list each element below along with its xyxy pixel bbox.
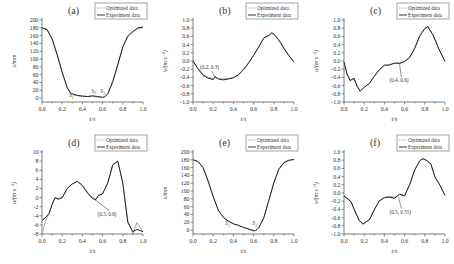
svg-text:6: 6 <box>36 167 39 173</box>
annotation: S3 <box>101 88 106 95</box>
legend-optimized: Optimized data <box>106 5 139 11</box>
axes: -1.0-0.8-0.6-0.4-0.20.00.20.40.60.81.00.… <box>180 17 297 112</box>
svg-text:-4: -4 <box>34 213 39 219</box>
legend-optimized: Optimized data <box>408 137 441 143</box>
svg-text:0.6: 0.6 <box>401 106 408 112</box>
series-experiment <box>193 33 294 80</box>
svg-text:-2: -2 <box>34 204 39 210</box>
svg-text:-0.4: -0.4 <box>331 206 340 212</box>
svg-text:40: 40 <box>33 79 39 85</box>
x-axis-label: t/s <box>392 247 398 254</box>
panel-c: (c)Optimized dataExperiment data-1.0-0.8… <box>302 0 453 132</box>
svg-text:0.8: 0.8 <box>333 25 340 31</box>
panel-label: (d) <box>68 137 80 149</box>
svg-text:0.0: 0.0 <box>333 190 340 196</box>
svg-text:60: 60 <box>184 204 190 210</box>
svg-text:0.0: 0.0 <box>38 106 45 112</box>
svg-text:0: 0 <box>36 195 39 201</box>
svg-text:200: 200 <box>30 17 39 23</box>
legend: Optimized dataExperiment data <box>95 3 147 19</box>
svg-text:-0.6: -0.6 <box>331 83 340 89</box>
svg-text:0.2: 0.2 <box>361 106 368 112</box>
annotation: (0.5, 0.55) <box>389 197 411 215</box>
svg-text:100: 100 <box>30 56 39 62</box>
svg-text:180: 180 <box>181 157 190 163</box>
svg-text:40: 40 <box>184 211 190 217</box>
svg-text:0.2: 0.2 <box>59 106 66 112</box>
svg-text:0.6: 0.6 <box>401 238 408 244</box>
legend-experiment: Experiment data <box>257 144 292 150</box>
svg-text:1.0: 1.0 <box>441 106 448 112</box>
svg-text:0.0: 0.0 <box>182 58 189 64</box>
annotation: (0.5, 0.6) <box>95 199 117 217</box>
panel-f: (f)Optimized dataExperiment data-1.0-0.8… <box>302 132 453 264</box>
chart-e: (e)Optimized dataExperiment data02040608… <box>151 132 302 264</box>
legend-experiment: Experiment data <box>106 12 141 18</box>
svg-text:-0.4: -0.4 <box>331 74 340 80</box>
svg-text:0.0: 0.0 <box>189 106 196 112</box>
panel-label: (c) <box>370 5 381 17</box>
svg-text:0.2: 0.2 <box>361 238 368 244</box>
x-axis-label: t/s <box>241 247 247 254</box>
svg-text:-0.8: -0.8 <box>331 223 340 229</box>
svg-text:0.8: 0.8 <box>421 106 428 112</box>
y-axis-label: a/(m·s⁻²) <box>10 182 18 204</box>
legend-experiment: Experiment data <box>408 144 443 150</box>
y-axis-label: a/(m·s⁻²) <box>312 50 320 72</box>
svg-text:0.2: 0.2 <box>59 238 66 244</box>
svg-text:-1.0: -1.0 <box>331 99 340 105</box>
svg-text:80: 80 <box>33 64 39 70</box>
chart-a: (a)Optimized dataExperiment data02040608… <box>0 0 151 132</box>
svg-text:0.6: 0.6 <box>99 238 106 244</box>
y-axis-label: v/(m·s⁻¹) <box>161 50 169 72</box>
svg-text:(0.2, 0.3): (0.2, 0.3) <box>200 64 219 71</box>
svg-text:S3: S3 <box>101 88 106 95</box>
svg-text:0.4: 0.4 <box>230 238 237 244</box>
x-axis-label: t/s <box>90 115 96 122</box>
svg-text:-0.6: -0.6 <box>331 215 340 221</box>
axes: 0204060801001201401601802000.00.20.40.60… <box>181 149 298 244</box>
svg-text:0.6: 0.6 <box>250 106 257 112</box>
svg-text:0.4: 0.4 <box>79 238 86 244</box>
legend-optimized: Optimized data <box>106 137 139 143</box>
svg-text:-0.4: -0.4 <box>180 74 189 80</box>
svg-text:-1.0: -1.0 <box>180 99 189 105</box>
y-axis-label: v/(m·s⁻¹) <box>312 182 320 204</box>
svg-text:-0.6: -0.6 <box>180 83 189 89</box>
legend-optimized: Optimized data <box>257 137 290 143</box>
panel-label: (a) <box>68 5 79 17</box>
series-experiment <box>42 161 143 232</box>
svg-text:0.8: 0.8 <box>270 238 277 244</box>
legend-optimized: Optimized data <box>257 5 290 11</box>
svg-text:1.0: 1.0 <box>290 106 297 112</box>
svg-text:(0.5, 0.6): (0.5, 0.6) <box>98 211 117 218</box>
y-axis-label: s/mm <box>10 54 17 68</box>
svg-text:1.0: 1.0 <box>333 17 340 23</box>
svg-text:120: 120 <box>30 48 39 54</box>
legend: Optimized dataExperiment data <box>397 135 449 151</box>
svg-text:(0.4, 0.6): (0.4, 0.6) <box>389 77 408 84</box>
legend: Optimized dataExperiment data <box>246 3 298 19</box>
svg-text:0.2: 0.2 <box>333 182 340 188</box>
svg-text:(0.5, 0.55): (0.5, 0.55) <box>389 209 411 216</box>
chart-c: (c)Optimized dataExperiment data-1.0-0.8… <box>302 0 453 132</box>
svg-text:4: 4 <box>36 176 39 182</box>
svg-text:0.6: 0.6 <box>182 33 189 39</box>
svg-text:1.0: 1.0 <box>182 17 189 23</box>
svg-text:0.6: 0.6 <box>333 33 340 39</box>
svg-text:0.8: 0.8 <box>119 238 126 244</box>
svg-text:0.6: 0.6 <box>250 238 257 244</box>
svg-text:0.4: 0.4 <box>333 174 340 180</box>
svg-text:-6: -6 <box>34 222 39 228</box>
svg-text:160: 160 <box>30 33 39 39</box>
svg-text:20: 20 <box>33 87 39 93</box>
svg-text:0.2: 0.2 <box>182 50 189 56</box>
svg-text:0.8: 0.8 <box>119 106 126 112</box>
svg-text:0.4: 0.4 <box>182 42 189 48</box>
svg-text:2: 2 <box>36 185 39 191</box>
legend-experiment: Experiment data <box>257 12 292 18</box>
legend: Optimized dataExperiment data <box>397 3 449 19</box>
annotation: S2 <box>91 88 96 95</box>
svg-text:0.4: 0.4 <box>333 42 340 48</box>
svg-text:0.0: 0.0 <box>340 106 347 112</box>
